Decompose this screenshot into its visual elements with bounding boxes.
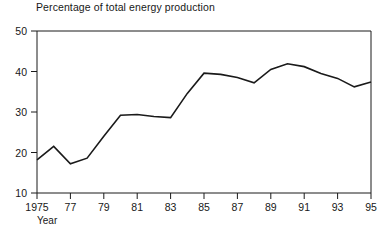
- x-tick-label-1975: 1975: [25, 201, 49, 213]
- x-axis-tick-labels: 1975 77 79 81 83 85 87 89 91 93 95: [25, 201, 377, 213]
- y-tick-label-50: 50: [15, 25, 27, 37]
- line-chart-plot: 10 20 30 40 50 1975 77 79 81 83: [0, 0, 388, 227]
- x-tick-label-1983: 83: [165, 201, 177, 213]
- chart-figure: Percentage of total energy production 10…: [0, 0, 388, 227]
- y-tick-label-10: 10: [15, 187, 27, 199]
- x-tick-label-1989: 89: [265, 201, 277, 213]
- x-tick-label-1993: 93: [332, 201, 344, 213]
- x-tick-label-1995: 95: [365, 201, 377, 213]
- x-tick-label-1981: 81: [131, 201, 143, 213]
- x-axis-name: Year: [37, 215, 58, 226]
- y-tick-label-20: 20: [15, 147, 27, 159]
- plot-frame: [37, 31, 371, 193]
- x-axis-ticks: [37, 193, 371, 199]
- y-axis-ticks: [31, 31, 37, 193]
- data-series-line: [37, 64, 371, 164]
- x-tick-label-1991: 91: [298, 201, 310, 213]
- y-axis-tick-labels: 10 20 30 40 50: [15, 25, 27, 199]
- x-tick-label-1987: 87: [232, 201, 244, 213]
- x-tick-label-1977: 77: [65, 201, 77, 213]
- y-tick-label-30: 30: [15, 106, 27, 118]
- y-tick-label-40: 40: [15, 66, 27, 78]
- x-tick-label-1985: 85: [198, 201, 210, 213]
- x-tick-label-1979: 79: [98, 201, 110, 213]
